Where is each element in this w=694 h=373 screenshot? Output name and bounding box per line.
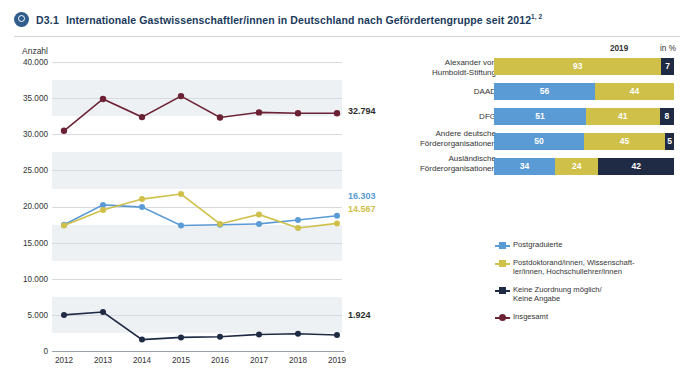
figure-number: D3.1: [36, 14, 59, 26]
x-axis-line: [52, 351, 344, 352]
y-tick-label: 30.000: [4, 130, 48, 139]
legend-label: Postgraduierte: [513, 240, 562, 249]
legend-label: Keine Zuordnung möglich/ Keine Angabe: [513, 285, 602, 304]
bar-row-label-andere-deutsche: Andere deutscheFörderorganisationen: [404, 129, 496, 149]
bar-row-label-daad: DAAD: [404, 87, 496, 97]
table-row: 93 7: [494, 58, 674, 75]
bar-segment-postdoc: 93: [494, 58, 661, 75]
bar-unit-header: in %: [660, 44, 676, 53]
series-end-label-postgraduierte: 16.303: [348, 191, 376, 201]
y-tick-label: 10.000: [4, 275, 48, 284]
chart-circle-icon: [14, 12, 29, 27]
bar-segment-postdoc: 44: [595, 83, 674, 100]
legend-label: Postdoktorand/innen, Wissenschaft- ler/i…: [513, 258, 635, 277]
bar-segment-postdoc: 24: [555, 158, 598, 175]
header-divider: [14, 36, 680, 37]
x-tick-label: 2015: [164, 356, 198, 365]
bar-segment-postgraduierte: 51: [494, 108, 586, 125]
bar-year-header: 2019: [610, 44, 628, 53]
x-tick-label: 2017: [242, 356, 276, 365]
legend-marker-keine-zuordnung: [498, 286, 507, 295]
series-end-label-keine-zuordnung: 1.924: [348, 310, 371, 320]
bar-segment-keine-zuordnung: 5: [665, 133, 674, 150]
table-row: 34 24 42: [494, 158, 674, 175]
legend-marker-postdoc: [498, 259, 507, 268]
bar-segment-postgraduierte: 50: [494, 133, 584, 150]
y-tick-label: 15.000: [4, 239, 48, 248]
figure-title-footnote-marker: 1, 2: [531, 13, 542, 20]
legend-label: Insgesamt: [513, 312, 548, 321]
y-tick-label: 35.000: [4, 94, 48, 103]
y-axis-title: Anzahl: [22, 46, 48, 56]
bar-segment-keine-zuordnung: 8: [660, 108, 674, 125]
table-row: 51 41 8: [494, 108, 674, 125]
table-row: 50 45 5: [494, 133, 674, 150]
x-tick-label: 2018: [281, 356, 315, 365]
legend-item-keine-zuordnung: Keine Zuordnung möglich/ Keine Angabe: [498, 285, 688, 304]
bar-segment-postdoc: 45: [584, 133, 665, 150]
bar-row-label-humboldt: Alexander vonHumboldt-Stiftung: [404, 58, 496, 78]
figure-header: D3.1 Internationale Gastwissenschaftler/…: [0, 0, 694, 42]
bar-segment-keine-zuordnung: 42: [598, 158, 674, 175]
bar-segment-keine-zuordnung: 7: [661, 58, 674, 75]
line-series-svg: [52, 62, 342, 352]
series-end-label-insgesamt: 32.794: [348, 106, 376, 116]
legend-item-insgesamt: Insgesamt: [498, 312, 688, 322]
bar-segment-postdoc: 41: [586, 108, 660, 125]
figure-header-inner: D3.1 Internationale Gastwissenschaftler/…: [14, 12, 542, 27]
legend-item-postdoc: Postdoktorand/innen, Wissenschaft- ler/i…: [498, 258, 688, 277]
bar-segment-postgraduierte: 34: [494, 158, 555, 175]
series-end-label-postdoc: 14.567: [348, 204, 376, 214]
bar-segment-postgraduierte: 56: [494, 83, 595, 100]
stacked-bar-chart: 2019 in % Alexander vonHumboldt-Stiftung…: [398, 44, 694, 369]
y-tick-label: 0: [4, 347, 48, 356]
bar-row-label-auslaendische: AusländischeFörderorganisationen: [404, 154, 496, 174]
figure-root: D3.1 Internationale Gastwissenschaftler/…: [0, 0, 694, 373]
x-tick-label: 2016: [203, 356, 237, 365]
y-tick-label: 25.000: [4, 166, 48, 175]
x-tick-label: 2014: [125, 356, 159, 365]
legend-marker-postgraduierte: [498, 241, 507, 250]
table-row: 56 44: [494, 83, 674, 100]
y-tick-label: 40.000: [4, 58, 48, 67]
x-tick-label: 2012: [47, 356, 81, 365]
series-insgesamt-points: [61, 93, 340, 134]
y-tick-label: 5.000: [4, 311, 48, 320]
x-tick-label: 2013: [86, 356, 120, 365]
legend-marker-insgesamt: [498, 313, 507, 322]
x-tick-label: 2019: [320, 356, 354, 365]
bar-row-label-dfg: DFG: [404, 112, 496, 122]
y-tick-label: 20.000: [4, 202, 48, 211]
line-chart: Anzahl 40.000 35.000 30.000 25.000 20.00…: [0, 44, 400, 369]
line-plot-area: [52, 62, 342, 352]
figure-title: Internationale Gastwissenschaftler/innen…: [66, 13, 542, 26]
legend-item-postgraduierte: Postgraduierte: [498, 240, 688, 250]
